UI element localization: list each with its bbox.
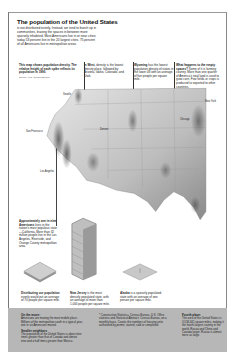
caption-heading: This map shows population density. The r… [19,63,77,74]
caption-alaska: Alaska is a sparsely populated state wit… [120,292,164,303]
map-label: Seattle [63,93,71,96]
caption-empty-spaces: What happens to the empty spaces? Some o… [176,64,220,89]
caption-map-intro: This map shows population density. The r… [19,64,77,79]
caption-new-jersey: New Jersey is the most densely populated… [70,292,110,306]
map-label: Chicago [180,118,190,121]
map-label: San Francisco [26,130,43,133]
caption-wyoming: Wyoming has the lowest population densit… [134,64,174,82]
caption-distributing: Distributing our population evenly would… [21,292,61,303]
caption-california: Approximately one in nine Americans live… [19,220,59,249]
map-label: New York [205,100,216,103]
new-jersey-tower-illustration [70,214,98,284]
caption-source: Source: U.S. Census Bureau [19,76,77,80]
caption-text: Some of it is farming country. More than… [176,67,219,89]
map-label: Denver [100,128,108,131]
caption-text: lives in the nation's most populous stat… [19,223,57,249]
population-density-map [20,88,228,228]
page-title: The population of the United States [17,18,118,25]
even-distribution-block-illustration [22,262,58,284]
map-label: Los Angeles [40,170,54,173]
footer-text: Americans are moving the most mobile pla… [21,316,83,327]
alaska-flat-illustration [120,263,160,281]
caption-text: has the lowest population density of sta… [134,63,174,81]
footer-text: The population of the United States is a… [21,332,82,343]
caption-west: In West, density is the lowest density p… [84,64,124,78]
footer-text: The area of the United States is 3,536,3… [182,316,224,337]
footer-text: * Construction Statistics. Census Bureau… [99,313,167,327]
footer-center: * Construction Statistics. Census Bureau… [99,314,169,328]
footer-right: Fourth place: The area of the United Sta… [182,314,226,338]
caption-text: evenly would put an average of 70 people… [21,295,60,303]
intro-text: is not distributed evenly. Instead, we t… [17,26,97,46]
footer-left: On the move: Americans are moving the mo… [21,314,83,343]
